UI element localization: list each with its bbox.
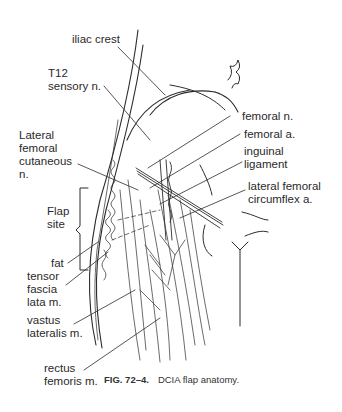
leader-lines (66, 47, 245, 370)
flap-site-bracket (76, 188, 88, 270)
label-femoral-nerve: femoral n. (242, 110, 293, 123)
label-flap-site: Flap site (47, 205, 69, 231)
inguinal-ligament (136, 160, 223, 240)
label-fat: fat (51, 257, 64, 270)
label-tensor-fascia-lata: tensor fascia lata m. (27, 270, 62, 309)
label-lateral-femoral-circumflex-artery: lateral femoral circumflex a. (248, 180, 321, 206)
label-rectus-femoris: rectus femoris m. (44, 362, 98, 388)
figure-caption: FIG. 72–4.DCIA flap anatomy. (104, 374, 239, 385)
label-inguinal-ligament: inguinal ligament (244, 145, 287, 171)
thigh-outline (90, 30, 238, 348)
fat-lobules (95, 120, 118, 340)
figure-number: FIG. 72–4. (104, 374, 149, 385)
figure-caption-text: DCIA flap anatomy. (158, 374, 239, 385)
label-iliac-crest: iliac crest (72, 33, 120, 46)
label-t12-sensory-nerve: T12 sensory n. (48, 67, 101, 93)
label-vastus-lateralis: vastus lateralis m. (27, 314, 83, 340)
label-femoral-artery: femoral a. (244, 128, 295, 141)
label-lateral-femoral-cutaneous-nerve: Lateral femoral cutaneous n. (19, 129, 72, 181)
